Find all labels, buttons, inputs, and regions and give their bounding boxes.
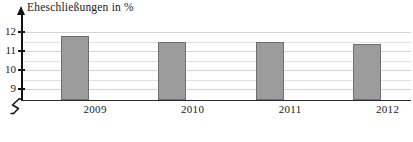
bar-2009: [61, 36, 89, 100]
y-axis-tick-label: 11: [0, 44, 16, 56]
y-axis-tick: [18, 69, 25, 70]
x-axis-tick-label: 2012: [376, 103, 399, 115]
y-axis-tick-label: 10: [0, 63, 16, 75]
bars-layer: [21, 20, 411, 100]
y-axis-tick-labels: 1211109: [0, 0, 16, 142]
bar-2010: [158, 42, 186, 101]
x-axis-tick-label: 2009: [83, 103, 106, 115]
y-axis-tick-label: 9: [0, 82, 16, 94]
x-axis-tick-labels: 2009201020112012: [21, 103, 411, 123]
bar-2012: [353, 44, 381, 100]
y-axis-tick: [18, 31, 25, 32]
y-axis-tick-label: 12: [0, 25, 16, 37]
x-axis-tick-label: 2010: [181, 103, 204, 115]
x-axis-tick-label: 2011: [279, 103, 302, 115]
bar-chart: Eheschließungen in % 1211109 20092010201…: [0, 0, 413, 142]
chart-title: Eheschließungen in %: [27, 1, 134, 13]
y-axis-tick: [18, 88, 25, 89]
bar-2011: [256, 42, 284, 101]
y-axis-tick: [18, 50, 25, 51]
